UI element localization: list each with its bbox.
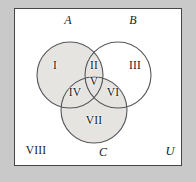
region-label-viii: VIII	[26, 145, 47, 157]
region-label-iv: IV	[69, 87, 82, 99]
venn-diagram-figure: A B C I II III IV V VI VII VIII U	[0, 0, 196, 182]
region-label-vii: VII	[86, 115, 103, 127]
set-label-c: C	[96, 146, 109, 158]
universal-set-label: U	[165, 145, 174, 158]
region-label-vi: VI	[107, 87, 120, 99]
region-label-ii: II	[90, 60, 98, 72]
region-label-v: V	[90, 76, 99, 88]
set-label-b: B	[127, 14, 139, 26]
region-label-i: I	[53, 60, 57, 72]
region-label-iii: III	[129, 60, 141, 72]
set-label-a: A	[62, 14, 74, 26]
